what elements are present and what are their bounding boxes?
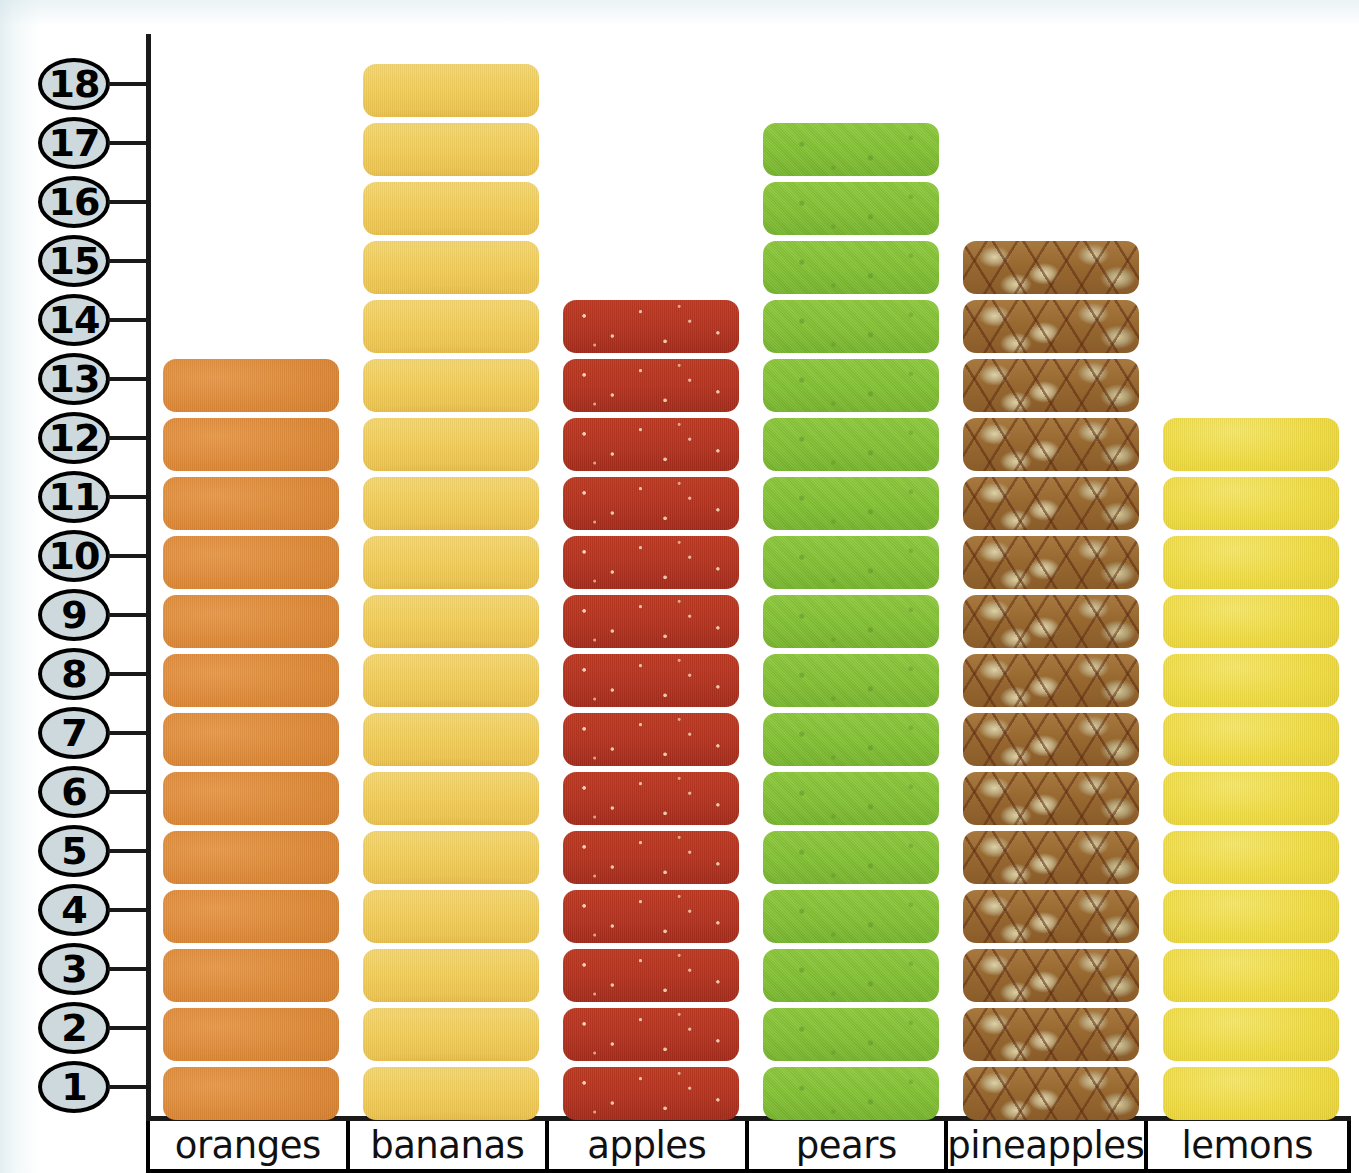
bar-block — [963, 772, 1139, 825]
y-axis-tick-badge: 8 — [38, 648, 110, 700]
y-axis-tick-line — [108, 200, 150, 204]
bar-block — [963, 418, 1139, 471]
y-axis-tick-line — [108, 318, 150, 322]
bar-block — [563, 1008, 739, 1061]
category-label-lemons: lemons — [1148, 1121, 1348, 1169]
y-axis: 181716151413121110987654321 — [0, 0, 150, 1122]
y-axis-tick-badge: 4 — [38, 884, 110, 936]
bar-block — [1163, 713, 1339, 766]
category-labels-row: orangesbananasapplespearspineappleslemon… — [146, 1121, 1351, 1173]
bar-block — [163, 477, 339, 530]
bar-block — [963, 949, 1139, 1002]
bar-block — [563, 536, 739, 589]
y-axis-tick-line — [108, 849, 150, 853]
bar-block — [163, 772, 339, 825]
bar-block — [763, 536, 939, 589]
bar-block — [363, 241, 539, 294]
bar-block — [363, 1067, 539, 1120]
y-axis-tick: 14 — [0, 297, 150, 343]
block-stack — [1151, 412, 1351, 1120]
bar-block — [763, 182, 939, 235]
bar-block — [563, 713, 739, 766]
bar-block — [363, 477, 539, 530]
bar-block — [763, 359, 939, 412]
bar-block — [1163, 418, 1339, 471]
bar-block — [763, 890, 939, 943]
bar-column-pineapples — [951, 24, 1151, 1120]
bar-block — [763, 477, 939, 530]
y-axis-tick: 10 — [0, 533, 150, 579]
bar-block — [1163, 831, 1339, 884]
bar-block — [763, 595, 939, 648]
y-axis-tick-badge: 16 — [38, 176, 110, 228]
y-axis-tick: 8 — [0, 651, 150, 697]
bar-block — [363, 949, 539, 1002]
bar-block — [563, 359, 739, 412]
bar-block — [763, 654, 939, 707]
bar-block — [763, 831, 939, 884]
bar-column-apples — [551, 24, 751, 1120]
y-axis-tick-badge: 14 — [38, 294, 110, 346]
y-axis-tick: 13 — [0, 356, 150, 402]
bar-block — [763, 418, 939, 471]
bar-block — [363, 1008, 539, 1061]
bar-block — [163, 595, 339, 648]
bar-block — [963, 890, 1139, 943]
bar-block — [963, 477, 1139, 530]
y-axis-tick: 1 — [0, 1064, 150, 1110]
y-axis-tick-badge: 9 — [38, 589, 110, 641]
block-stack — [951, 235, 1151, 1120]
y-axis-tick-line — [108, 790, 150, 794]
y-axis-tick-line — [108, 377, 150, 381]
y-axis-tick-line — [108, 82, 150, 86]
bar-block — [363, 890, 539, 943]
bar-block — [563, 595, 739, 648]
bar-block — [763, 772, 939, 825]
y-axis-tick-badge: 2 — [38, 1002, 110, 1054]
bar-block — [963, 359, 1139, 412]
bar-block — [163, 418, 339, 471]
bar-block — [763, 241, 939, 294]
y-axis-tick-badge: 1 — [38, 1061, 110, 1113]
category-label-pineapples: pineapples — [948, 1121, 1148, 1169]
y-axis-tick-badge: 11 — [38, 471, 110, 523]
bar-block — [163, 890, 339, 943]
bar-block — [363, 300, 539, 353]
y-axis-tick-badge: 10 — [38, 530, 110, 582]
plot-area — [151, 24, 1351, 1120]
block-stack — [551, 294, 751, 1120]
y-axis-tick: 3 — [0, 946, 150, 992]
bar-block — [163, 359, 339, 412]
y-axis-tick-line — [108, 495, 150, 499]
bar-block — [1163, 595, 1339, 648]
bar-block — [563, 300, 739, 353]
bar-block — [763, 949, 939, 1002]
y-axis-tick-badge: 3 — [38, 943, 110, 995]
y-axis-tick-line — [108, 672, 150, 676]
bar-block — [763, 300, 939, 353]
bar-block — [563, 890, 739, 943]
y-axis-tick: 7 — [0, 710, 150, 756]
bar-column-lemons — [1151, 24, 1351, 1120]
y-axis-tick-badge: 7 — [38, 707, 110, 759]
bar-block — [363, 123, 539, 176]
bar-block — [363, 536, 539, 589]
bar-block — [963, 536, 1139, 589]
bar-block — [963, 713, 1139, 766]
block-stack — [751, 117, 951, 1120]
y-axis-tick-line — [108, 554, 150, 558]
bar-block — [763, 1067, 939, 1120]
bar-block — [363, 772, 539, 825]
y-axis-tick-badge: 18 — [38, 58, 110, 110]
bar-column-pears — [751, 24, 951, 1120]
block-stack — [351, 58, 551, 1120]
y-axis-tick: 2 — [0, 1005, 150, 1051]
y-axis-tick-line — [108, 436, 150, 440]
bar-block — [563, 831, 739, 884]
bar-block — [563, 654, 739, 707]
bar-block — [563, 949, 739, 1002]
y-axis-tick: 16 — [0, 179, 150, 225]
bar-block — [1163, 1067, 1339, 1120]
y-axis-tick: 9 — [0, 592, 150, 638]
category-label-pears: pears — [749, 1121, 949, 1169]
